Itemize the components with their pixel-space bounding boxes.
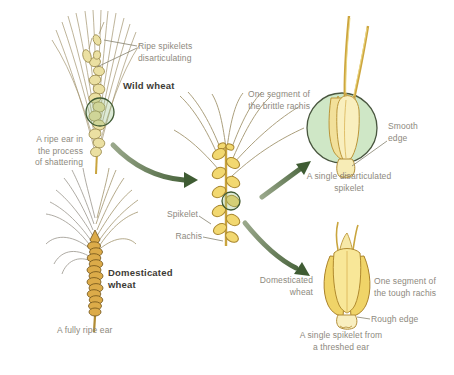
spikelet-label: Spikelet — [148, 209, 198, 221]
domesticated-wheat-title: Domesticated wheat — [108, 267, 173, 291]
wild-wheat-title: Wild wheat — [123, 80, 175, 92]
center-ear-illustration — [174, 92, 304, 246]
wheat-domestication-diagram: Ripe spikelets disarticulating Wild whea… — [0, 0, 454, 375]
rachis-label: Rachis — [150, 231, 202, 243]
ripe-spikelets-callout: Ripe spikelets disarticulating — [138, 41, 218, 64]
brittle-spikelet-magnifier — [307, 16, 377, 178]
tough-caption: A single spikelet from a threshed ear — [282, 330, 400, 353]
domesticated-wheat-caption: A fully ripe ear — [57, 325, 112, 337]
zoom-ring-center-ear — [222, 192, 240, 210]
brittle-segment-label: One segment of the brittle rachis — [234, 89, 310, 112]
tough-segment-label: One segment of the tough rachis — [374, 276, 449, 299]
smooth-edge-label: Smooth edge — [388, 121, 418, 144]
detached-spikelet-upper — [92, 34, 103, 47]
domesticated-wheat-ear-illustration — [46, 168, 138, 332]
rough-edge-label: Rough edge — [371, 314, 418, 326]
zoom-ring-wild-ear — [86, 98, 114, 126]
brittle-caption: A single disarticulated spikelet — [288, 171, 410, 194]
wild-wheat-caption: A ripe ear in the process of shattering — [8, 134, 83, 169]
arrow-center-to-tough — [245, 223, 310, 276]
tough-spikelet-illustration — [324, 222, 370, 329]
arrow-wild-to-center — [113, 145, 198, 188]
tough-arrow-label: Domesticated wheat — [240, 275, 313, 298]
